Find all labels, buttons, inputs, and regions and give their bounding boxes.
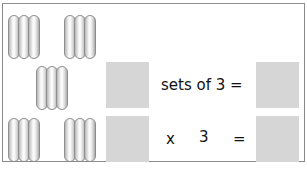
counter-group-2	[64, 15, 97, 60]
answer-box-total-2[interactable]	[256, 116, 299, 162]
sets-of-label: sets of 3 =	[161, 76, 243, 94]
counter-group-1	[8, 15, 41, 60]
pill-icon	[84, 15, 96, 59]
equals-sign: =	[233, 130, 246, 148]
pill-icon	[28, 118, 40, 162]
counter-group-4	[8, 118, 41, 163]
pill-icon	[28, 15, 40, 59]
answer-box-multiplier[interactable]	[106, 116, 149, 162]
counter-group-3	[36, 66, 69, 111]
answer-box-total-1[interactable]	[256, 62, 299, 108]
pill-icon	[84, 118, 96, 162]
counter-group-5	[64, 118, 97, 163]
factor-value: 3	[199, 128, 209, 146]
answer-box-sets[interactable]	[106, 62, 149, 108]
pill-icon	[56, 66, 68, 110]
times-sign: x	[166, 130, 175, 148]
